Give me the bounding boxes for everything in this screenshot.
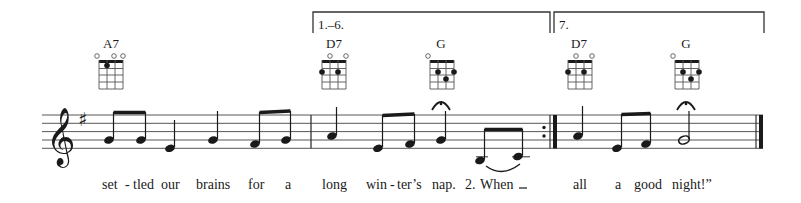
chord-diagram-g-second (671, 54, 702, 89)
second-ending-bracket (554, 12, 764, 33)
lyric-syllable: a (285, 177, 291, 193)
notes-measure-1 (103, 111, 292, 153)
lyric-syllable: our (161, 177, 180, 193)
lyric-syllable: ter’s (397, 177, 422, 193)
chord-diagram-a7 (95, 54, 126, 89)
slur (486, 164, 520, 172)
fermata-icon (677, 102, 695, 110)
notes-measure-3 (572, 106, 690, 153)
fermata-icon (432, 102, 450, 110)
staff (42, 115, 763, 148)
lyric-syllable: night!” (672, 177, 712, 193)
lyric-syllable: set (102, 177, 118, 193)
lyric-syllable: win (366, 177, 387, 193)
lyric-syllable: tled (133, 177, 154, 193)
treble-clef-icon: 𝄞 (46, 107, 76, 168)
lyric-syllable: nap. (432, 177, 456, 193)
verse-number: 2. (465, 177, 476, 193)
lyric-syllable: all (573, 177, 587, 193)
lyric-syllable: long (322, 177, 347, 193)
lyric-syllable: a (615, 177, 621, 193)
lyric-syllable: brains (196, 177, 230, 193)
notation-canvas: 𝄞 ♯ (0, 0, 801, 203)
lyric-hyphen: - (390, 177, 395, 193)
sharp-icon: ♯ (78, 108, 87, 130)
lyric-syllable: for (248, 177, 264, 193)
chord-diagram-d7-first (319, 54, 348, 89)
chord-diagram-g-first (426, 54, 457, 89)
chord-diagram-d7-second (565, 54, 594, 89)
lyric-syllable: good (634, 177, 662, 193)
lyric-hyphen: - (125, 177, 130, 193)
notes-measure-2 (326, 107, 530, 166)
lyric-syllable: When (480, 177, 513, 193)
first-ending-bracket (313, 12, 550, 33)
